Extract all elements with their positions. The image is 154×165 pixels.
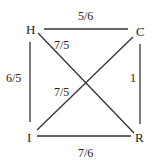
node-r-label: R — [135, 130, 144, 145]
graph-diagram: H C I R 5/6 6/5 1 7/6 7/5 7/5 — [0, 0, 154, 165]
node-i-label: I — [27, 130, 31, 145]
weight-h-r: 7/5 — [54, 38, 69, 52]
weight-h-c: 5/6 — [78, 9, 93, 23]
weight-h-i: 6/5 — [6, 71, 21, 85]
node-c-label: C — [136, 24, 145, 39]
node-h-label: H — [26, 22, 35, 37]
weight-i-r: 7/6 — [78, 146, 93, 160]
weight-c-r: 1 — [130, 71, 136, 85]
weight-i-c: 7/5 — [54, 85, 69, 99]
